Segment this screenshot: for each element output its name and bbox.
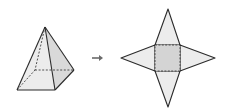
net-top-triangle: [155, 9, 180, 45]
square-pyramid: [17, 27, 74, 90]
net-right-triangle: [180, 45, 215, 71]
arrow-icon: [92, 55, 103, 61]
pyramid-net-diagram: [0, 0, 230, 111]
net-left-triangle: [121, 45, 155, 71]
pyramid-net: [121, 9, 215, 107]
net-bottom-triangle: [155, 71, 180, 107]
net-square-base: [155, 45, 180, 71]
